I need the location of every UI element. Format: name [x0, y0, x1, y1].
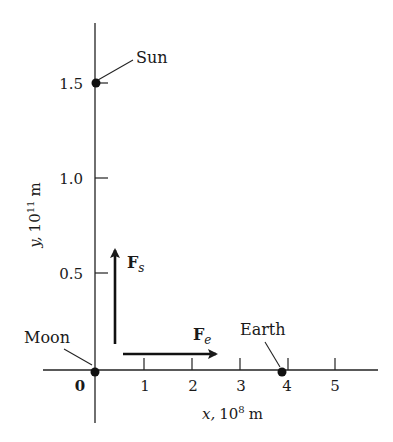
earth-point — [278, 368, 287, 377]
moon-leader-line — [64, 349, 92, 365]
x-tick-label-5: 5 — [330, 377, 340, 395]
force-earth-label: Fe — [193, 325, 211, 347]
sun-leader-line — [98, 60, 133, 80]
earth-leader-line — [265, 342, 280, 367]
moon-label: Moon — [24, 328, 70, 347]
earth-label: Earth — [240, 320, 286, 339]
sun-label: Sun — [136, 48, 168, 67]
x-tick-label-2: 2 — [188, 377, 198, 395]
x-tick-label-0: 0 — [75, 377, 85, 395]
moon-point — [91, 368, 100, 377]
svg-text:y,1011m: y,1011m — [25, 182, 44, 248]
x-axis-label: x,108m — [202, 404, 263, 423]
y-axis-label: y,1011m — [25, 182, 44, 248]
svg-text:x,108m: x,108m — [202, 404, 263, 423]
y-tick-label-0.5: 0.5 — [59, 265, 83, 283]
x-tick-label-3: 3 — [236, 377, 246, 395]
force-sun-label: Fs — [127, 253, 145, 275]
diagram-canvas: 0.5 1.0 1.5 0 1 2 3 4 5 x,108m y,1011m S… — [0, 0, 393, 442]
y-tick-label-1.5: 1.5 — [59, 75, 83, 93]
y-tick-label-1.0: 1.0 — [59, 170, 83, 188]
x-tick-label-4: 4 — [282, 377, 292, 395]
x-tick-label-1: 1 — [140, 377, 150, 395]
